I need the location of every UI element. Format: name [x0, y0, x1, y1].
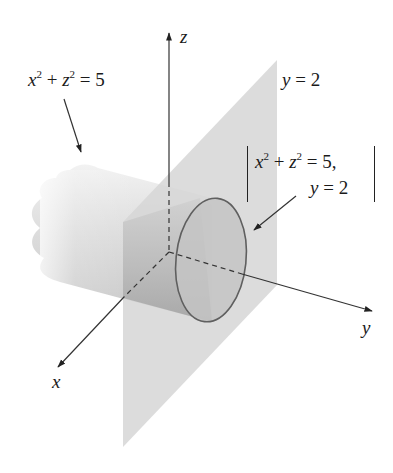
cylinder-equation-label: x2 + z2 = 5 — [28, 70, 105, 89]
x-axis — [58, 297, 124, 367]
cylinder-pointer-arrow — [64, 99, 81, 152]
system-left-bracket — [247, 146, 252, 202]
diagram-figure: x2 + z2 = 5 y = 2 x2 + z2 = 5, y = 2 z y… — [0, 0, 393, 473]
system-right-bracket — [370, 146, 375, 202]
axis-label-y: y — [362, 318, 370, 337]
axis-label-z: z — [180, 27, 187, 46]
plane-equation-label: y = 2 — [282, 70, 320, 89]
axis-label-x: x — [52, 372, 60, 391]
system-line-1: x2 + z2 = 5, — [255, 152, 337, 171]
system-line-2: y = 2 — [310, 178, 348, 197]
